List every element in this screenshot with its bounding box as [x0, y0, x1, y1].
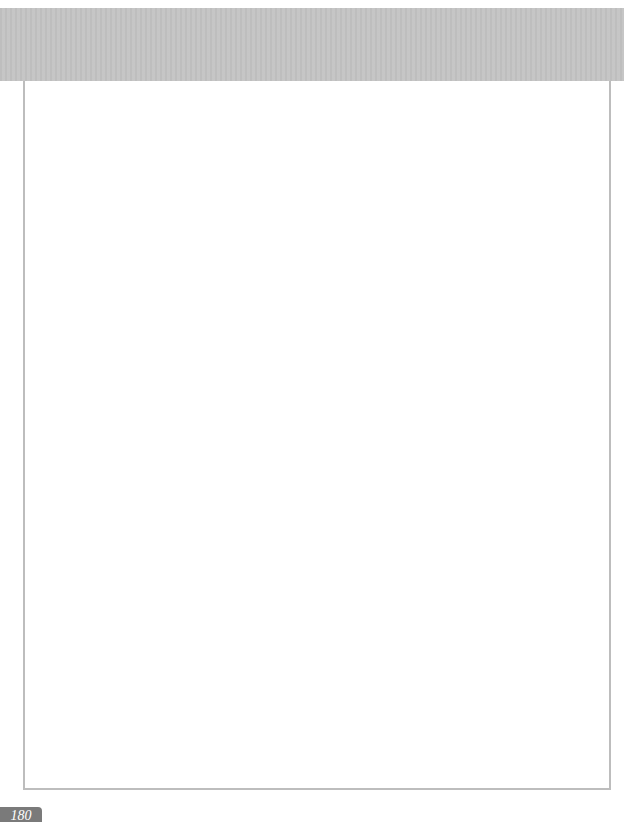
empty-content-frame	[23, 81, 611, 790]
header-band	[0, 8, 624, 81]
page-number: 180	[0, 807, 42, 822]
